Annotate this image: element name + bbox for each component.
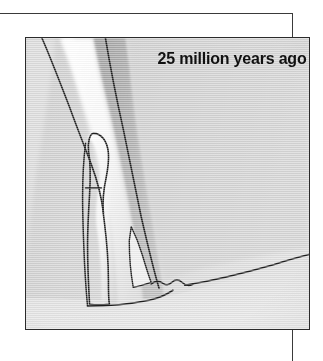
map-panel: 25 million years ago bbox=[25, 37, 310, 330]
map-caption: 25 million years ago bbox=[158, 50, 307, 67]
paleogeographic-map-illustration bbox=[26, 38, 309, 329]
eastern-upland-mass bbox=[129, 38, 309, 280]
frame-top-rule bbox=[0, 13, 293, 14]
